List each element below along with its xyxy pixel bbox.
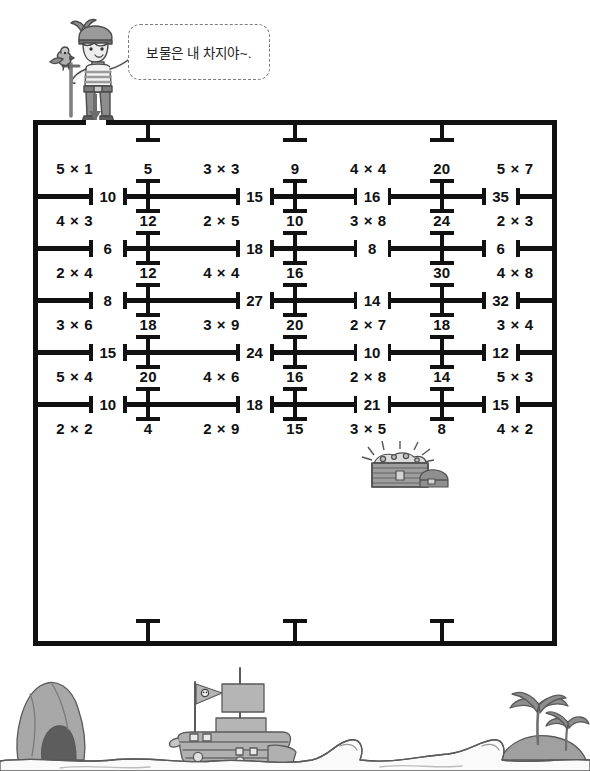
- wall-post-ibeam-3-flange: [430, 417, 454, 421]
- maze-expression-cell: 4 × 2: [479, 420, 552, 437]
- wall-post-ibeam-2-flange: [283, 231, 307, 235]
- wall-post-ibeam-1-flange: [136, 365, 160, 369]
- maze-answer-cell: 20: [111, 368, 184, 385]
- worksheet-page: 보물은 내 차지야~. 5 × 153 × 394 × 4205 × 74 × …: [0, 0, 590, 771]
- wall-post-ibeam-2-flange: [283, 313, 307, 317]
- maze-entrance-gap: [86, 120, 106, 126]
- wall-segment: [295, 350, 355, 355]
- maze-expression-cell: 3 × 9: [185, 316, 258, 333]
- wall-segment: [38, 402, 91, 407]
- wall-post-ibeam-2-flange: [283, 179, 307, 183]
- top-wall-stub-2-flange: [283, 138, 307, 142]
- wall-segment: [442, 194, 484, 199]
- wall-segment: [295, 194, 355, 199]
- maze-answer-cell: 18: [405, 316, 478, 333]
- bottom-wall-stub-2: [293, 623, 297, 641]
- wall-post-ibeam-3: [440, 179, 444, 213]
- maze-expression-cell: 4 × 4: [185, 264, 258, 281]
- wall-post-ibeam-2: [293, 335, 297, 369]
- wall-gap-number: 32: [484, 290, 518, 310]
- wall-gap-number: 8: [91, 290, 125, 310]
- maze-answer-cell: 30: [405, 264, 478, 281]
- wall-segment: [518, 350, 552, 355]
- wall-post-ibeam-1-flange: [136, 261, 160, 265]
- wall-post-ibeam-1: [146, 387, 150, 421]
- wall-post-ibeam-2-flange: [283, 335, 307, 339]
- wall-post-ibeam-3-flange: [430, 231, 454, 235]
- wall-gap-number: 18: [238, 394, 272, 414]
- wall-post-ibeam-2: [293, 387, 297, 421]
- wall-gap-number: 15: [484, 394, 518, 414]
- maze-expression-cell: 3 × 6: [38, 316, 111, 333]
- maze-answer-cell: 8: [405, 420, 478, 437]
- wall-post-ibeam-3: [440, 283, 444, 317]
- palm-tree-icon: [500, 692, 589, 760]
- wall-post-ibeam-3-flange: [430, 365, 454, 369]
- wall-post-ibeam-1-flange: [136, 283, 160, 287]
- maze-expression-cell: 2 × 7: [332, 316, 405, 333]
- wall-segment: [442, 246, 484, 251]
- top-wall-stub-3-flange: [430, 138, 454, 142]
- maze-answer-cell: 5: [111, 160, 184, 177]
- maze-expression-cell: 5 × 4: [38, 368, 111, 385]
- wall-segment: [148, 246, 237, 251]
- wall-post-ibeam-1-flange: [136, 387, 160, 391]
- maze-answer-cell: 15: [258, 420, 331, 437]
- down-arrow-icon: [88, 94, 102, 122]
- wall-post-ibeam-2-flange: [283, 209, 307, 213]
- wall-post-ibeam-2-flange: [283, 365, 307, 369]
- wall-post-ibeam-1: [146, 335, 150, 369]
- wall-segment: [148, 402, 237, 407]
- wall-gap-number: 18: [238, 238, 272, 258]
- maze-expression-cell: 3 × 4: [479, 316, 552, 333]
- wall-gap-number: 10: [91, 394, 125, 414]
- maze-grid: 5 × 153 × 394 × 4205 × 74 × 3122 × 5103 …: [38, 125, 552, 641]
- maze-answer-cell: 14: [405, 368, 478, 385]
- maze-expression-cell: 2 × 5: [185, 212, 258, 229]
- wall-post-ibeam-1-flange: [136, 417, 160, 421]
- wall-post-ibeam-1-flange: [136, 231, 160, 235]
- maze-expression-cell: 5 × 7: [479, 160, 552, 177]
- wall-post-ibeam-1-flange: [136, 179, 160, 183]
- wall-segment: [148, 350, 237, 355]
- wall-gap-number: 10: [91, 186, 125, 206]
- maze-expression-cell: 3 × 8: [332, 212, 405, 229]
- bottom-wall-stub-2-flange: [283, 619, 307, 623]
- wall-gap-number: 12: [484, 342, 518, 362]
- maze-cell-row: 5 × 153 × 394 × 4205 × 7: [38, 155, 552, 181]
- wall-gap-number: 27: [238, 290, 272, 310]
- bottom-wall-stub-1: [146, 623, 150, 641]
- wall-segment: [38, 194, 91, 199]
- maze-wall-row: 15241012: [38, 335, 552, 369]
- wall-post-ibeam-3-flange: [430, 387, 454, 391]
- wall-segment: [389, 350, 444, 355]
- treasure-chest-icon: [350, 441, 455, 493]
- wall-post-ibeam-2: [293, 283, 297, 317]
- maze-answer-cell: 4: [111, 420, 184, 437]
- wall-segment: [518, 298, 552, 303]
- maze-top-wall: [38, 120, 552, 142]
- maze-expression-cell: 4 × 4: [332, 160, 405, 177]
- speech-bubble-text: 보물은 내 차지야~.: [146, 42, 251, 62]
- wall-segment: [442, 350, 484, 355]
- wall-post-ibeam-2: [293, 231, 297, 265]
- wall-segment: [389, 298, 444, 303]
- wall-post-ibeam-1: [146, 179, 150, 213]
- wall-gap-number: 6: [91, 238, 125, 258]
- wall-segment: [295, 402, 355, 407]
- wall-gap-number: 16: [355, 186, 389, 206]
- maze-expression-cell: 4 × 3: [38, 212, 111, 229]
- wall-post-ibeam-3: [440, 387, 444, 421]
- wall-post-ibeam-2: [293, 179, 297, 213]
- wall-post-ibeam-3: [440, 335, 444, 369]
- maze-answer-cell: 24: [405, 212, 478, 229]
- maze-answer-cell: 16: [258, 368, 331, 385]
- maze-expression-cell: 2 × 4: [38, 264, 111, 281]
- maze-expression-cell: 2 × 2: [38, 420, 111, 437]
- wall-segment: [38, 350, 91, 355]
- sea-scene-illustration: [0, 660, 590, 771]
- wall-gap-number: 14: [355, 290, 389, 310]
- wall-post-ibeam-3-flange: [430, 209, 454, 213]
- maze-wall-row: 61886: [38, 231, 552, 265]
- wall-gap-number: 15: [238, 186, 272, 206]
